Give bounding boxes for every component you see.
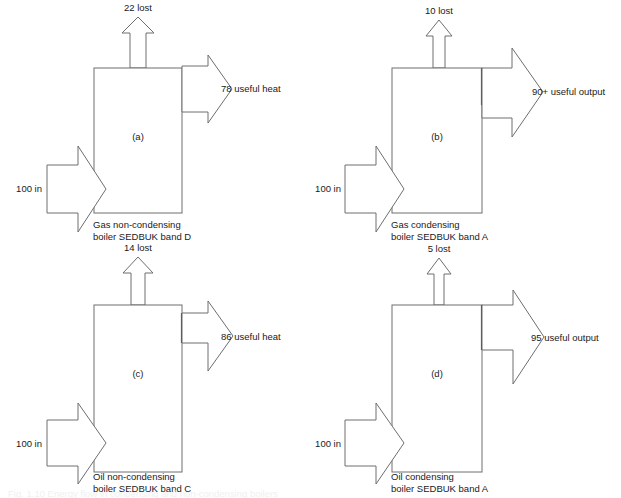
loss-arrow-a: [122, 17, 154, 68]
output-label-c: 86 useful heat: [221, 331, 281, 342]
caption-b-line1: Gas condensing: [391, 219, 460, 230]
caption-d-line2: boiler SEDBUK band A: [391, 483, 489, 494]
loss-label-a: 22 lost: [124, 2, 152, 13]
panel-a: 22 lost (a) 78 useful heat 100 in Gas no…: [16, 2, 281, 242]
caption-d-line1: Oil condensing: [391, 471, 454, 482]
panel-id-c: (c): [132, 368, 143, 379]
loss-label-b: 10 lost: [425, 5, 453, 16]
loss-arrow-b: [426, 20, 452, 68]
output-label-a: 78 useful heat: [221, 83, 281, 94]
loss-arrow-c: [123, 257, 153, 305]
input-label-b: 100 in: [315, 183, 341, 194]
loss-label-c: 14 lost: [124, 242, 152, 253]
panel-d: 5 lost (d) 95 useful output 100 in Oil c…: [315, 243, 599, 494]
caption-c-line1: Oil non-condensing: [93, 471, 175, 482]
figure-caption-cutoff: Fig. 1.10 Energy flow in condensing and …: [8, 488, 278, 498]
input-label-d: 100 in: [315, 438, 341, 449]
boiler-box-c: [94, 305, 182, 472]
output-label-b: 90+ useful output: [532, 86, 606, 97]
loss-arrow-d: [427, 258, 451, 305]
panel-id-b: (b): [431, 131, 443, 142]
panel-c: 14 lost (c) 86 useful heat 100 in Oil no…: [16, 242, 281, 494]
panel-id-a: (a): [132, 131, 144, 142]
figure-boiler-energy-flow: 22 lost (a) 78 useful heat 100 in Gas no…: [0, 0, 621, 498]
panel-b: 10 lost (b) 90+ useful output 100 in Gas…: [315, 5, 605, 242]
input-label-c: 100 in: [16, 438, 42, 449]
loss-label-d: 5 lost: [428, 243, 451, 254]
caption-a-line1: Gas non-condensing: [93, 219, 181, 230]
output-label-d: 95 useful output: [531, 332, 599, 343]
input-label-a: 100 in: [16, 183, 42, 194]
caption-a-line2: boiler SEDBUK band D: [93, 231, 191, 242]
boiler-box-d: [392, 305, 482, 472]
caption-b-line2: boiler SEDBUK band A: [391, 231, 489, 242]
panel-id-d: (d): [431, 368, 443, 379]
